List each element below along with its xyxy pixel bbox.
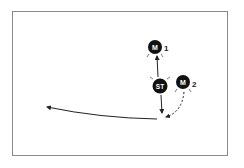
pass-arrow-long-left: [47, 107, 157, 119]
player-m2: M 2: [175, 75, 197, 92]
player-m1: M 1: [147, 40, 169, 57]
play-diagram: M 1 ST M 2: [0, 0, 244, 168]
player-label: M: [180, 79, 186, 86]
player-number: 1: [164, 44, 169, 53]
player-label: ST: [156, 83, 164, 90]
run-arrow-st-down: [161, 95, 162, 113]
player-number: 2: [192, 80, 197, 89]
player-st: ST: [150, 77, 170, 94]
pass-arrow-st-to-m1: [157, 56, 158, 77]
player-label: M: [152, 44, 158, 51]
run-arrow-m2-dashed: [166, 92, 184, 117]
